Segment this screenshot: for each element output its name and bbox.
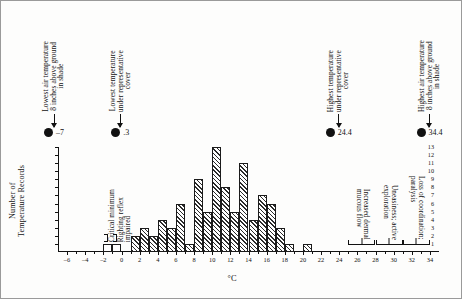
y-axis-title-label: Number of Temperature Records — [9, 165, 26, 237]
annotation-critical-minimum: Critical minimum — [103, 234, 112, 242]
x-tick — [430, 252, 431, 255]
x-tick — [140, 252, 141, 255]
x-tick-label: 0 — [115, 256, 129, 263]
x-tick — [85, 252, 86, 255]
marker-dot-icon — [326, 128, 335, 137]
x-tick-label: 26 — [350, 256, 364, 263]
annotation-label: Loss of coordination; paralysis — [409, 176, 424, 240]
histogram-bar — [103, 244, 112, 252]
marker-highest-temperature-cover: Highest temperature under representative… — [302, 5, 376, 137]
x-tick-label: –6 — [60, 256, 74, 263]
histogram-bar — [149, 236, 158, 252]
histogram-bar — [212, 147, 221, 252]
x-tick — [376, 252, 377, 255]
marker-value-row: –7 — [44, 128, 64, 137]
y-tick — [55, 195, 58, 196]
marker-highest-air-temperature: Highest air temperature 8 inches above g… — [393, 5, 462, 137]
x-tick-label: 10 — [205, 256, 219, 263]
x-tick-minor — [221, 252, 222, 254]
marker-label: Highest air temperature 8 inches above g… — [418, 40, 441, 112]
x-tick-minor — [421, 252, 422, 254]
y-tick — [55, 244, 58, 245]
y-tick — [55, 187, 58, 188]
x-tick-label: 28 — [369, 256, 383, 263]
x-tick-label: 20 — [296, 256, 310, 263]
y-tick — [55, 155, 58, 156]
x-tick-label: 34 — [423, 256, 437, 263]
x-tick-label: 24 — [332, 256, 346, 263]
marker-dot-icon — [44, 128, 53, 137]
x-tick-minor — [203, 252, 204, 254]
x-tick-minor — [294, 252, 295, 254]
x-tick-minor — [258, 252, 259, 254]
histogram-bar — [221, 187, 230, 252]
x-tick — [194, 252, 195, 255]
histogram-bar — [249, 220, 258, 252]
y-tick-label: 12 — [422, 152, 434, 158]
x-tick — [212, 252, 213, 255]
marker-label: Highest temperature under representative… — [327, 50, 350, 112]
marker-value-row: 24.4 — [326, 128, 352, 137]
marker-arrow-icon — [429, 114, 430, 127]
marker-label: Lowest temperature under representative … — [109, 50, 132, 112]
marker-lowest-air-temperature: Lowest air temperature 8 inches above gr… — [17, 5, 91, 137]
x-tick — [303, 252, 304, 255]
y-tick — [55, 163, 58, 164]
x-tick-label: 2 — [133, 256, 147, 263]
x-tick-minor — [403, 252, 404, 254]
x-tick — [176, 252, 177, 255]
histogram-bar — [303, 244, 312, 252]
x-tick-label: 14 — [242, 256, 256, 263]
histogram-bar — [112, 244, 121, 252]
histogram-bar — [203, 212, 212, 252]
histogram-bar — [167, 228, 176, 252]
x-tick-label: 18 — [278, 256, 292, 263]
x-tick-label: –2 — [96, 256, 110, 263]
marker-value: 34.4 — [429, 128, 443, 137]
x-axis-title: °C — [1, 274, 462, 283]
x-tick-label: 30 — [387, 256, 401, 263]
y-tick-label: 10 — [422, 168, 434, 174]
marker-arrow-icon — [120, 114, 121, 127]
histogram-bar — [258, 195, 267, 252]
x-tick-minor — [366, 252, 367, 254]
y-axis-title: Number of Temperature Records — [9, 151, 26, 251]
y-tick — [55, 171, 58, 172]
y-tick-label: 11 — [422, 160, 434, 166]
x-tick — [158, 252, 159, 255]
plot-area: 12345678910111213 –6–4–20246810121416182… — [58, 147, 439, 252]
x-tick-minor — [131, 252, 132, 254]
y-axis-line — [58, 147, 59, 252]
histogram-bar — [239, 163, 248, 252]
y-tick — [55, 212, 58, 213]
x-tick — [321, 252, 322, 255]
histogram-bar — [267, 204, 276, 252]
x-tick-minor — [167, 252, 168, 254]
x-tick-label: 16 — [260, 256, 274, 263]
histogram-bar — [140, 228, 149, 252]
x-tick — [103, 252, 104, 255]
histogram-bar — [185, 244, 194, 252]
x-tick-label: 6 — [169, 256, 183, 263]
x-tick — [412, 252, 413, 255]
x-tick-label: 4 — [151, 256, 165, 263]
marker-value-row: 34.4 — [417, 128, 443, 137]
x-tick-minor — [76, 252, 77, 254]
marker-arrow-icon — [338, 114, 339, 127]
annotation-label: Increased dermal mucous flow — [354, 189, 369, 240]
y-tick — [55, 179, 58, 180]
x-tick — [285, 252, 286, 255]
x-tick-label: 12 — [223, 256, 237, 263]
marker-arrow-icon — [54, 114, 55, 127]
x-tick-minor — [149, 252, 150, 254]
x-tick-minor — [94, 252, 95, 254]
marker-dot-icon — [111, 128, 120, 137]
y-tick — [55, 236, 58, 237]
x-tick — [339, 252, 340, 255]
x-tick-label: 22 — [314, 256, 328, 263]
y-tick — [55, 228, 58, 229]
x-tick — [249, 252, 250, 255]
x-tick-minor — [330, 252, 331, 254]
x-tick — [357, 252, 358, 255]
x-tick — [394, 252, 395, 255]
